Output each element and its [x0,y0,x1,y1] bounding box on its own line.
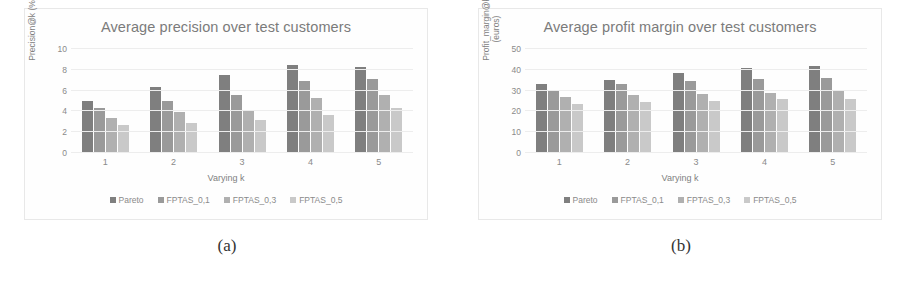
legend-item: FPTAS_0,3 [678,195,730,205]
x-axis-ticks: 12345 [525,157,867,167]
x-axis-tick-label: 4 [730,157,798,167]
legend-label: FPTAS_0,1 [167,195,210,205]
y-axis-tick-label: 40 [512,65,521,75]
legend-swatch-icon [678,197,684,203]
legend-label: FPTAS_0,3 [687,195,730,205]
bar [673,73,684,153]
legend-item: FPTAS_0,5 [744,195,796,205]
bar [616,84,627,153]
bar [219,75,230,153]
gridline [71,69,413,70]
plot-area: 0246810 [71,49,413,153]
bar [777,99,788,153]
y-axis-tick-label: 10 [512,127,521,137]
bar-group [799,49,867,153]
bar [162,101,173,153]
bar [82,101,93,153]
x-axis-label: Varying k [25,173,427,183]
bar [174,112,185,153]
y-axis-tick-label: 2 [62,127,67,137]
bar [299,81,310,153]
bar [560,97,571,153]
x-axis-tick-label: 5 [345,157,413,167]
y-axis-tick-label: 50 [512,44,521,54]
bar [311,98,322,153]
x-axis-tick-label: 3 [662,157,730,167]
chart-legend: ParetoFPTAS_0,1FPTAS_0,3FPTAS_0,5 [25,195,427,205]
x-axis-tick-label: 1 [71,157,139,167]
x-axis-tick-label: 2 [139,157,207,167]
bar [604,80,615,153]
y-axis-tick-label: 10 [58,44,67,54]
bar [379,95,390,153]
bar [709,101,720,153]
x-axis-label: Varying k [479,173,881,183]
legend-item: FPTAS_0,3 [224,195,276,205]
bar [287,65,298,153]
legend-swatch-icon [744,197,750,203]
bar-group [139,49,207,153]
bar-groups [525,49,867,153]
legend-swatch-icon [290,197,296,203]
bar [231,95,242,153]
gridline [71,131,413,132]
y-axis-tick-label: 4 [62,106,67,116]
legend-label: FPTAS_0,3 [233,195,276,205]
bar [548,91,559,153]
chart-title: Average profit margin over test customer… [479,19,881,35]
x-axis-tick-label: 4 [276,157,344,167]
bar [536,84,547,153]
figure-panel-b: Average profit margin over test customer… [454,0,908,284]
legend-item: Pareto [564,195,598,205]
chart-card-precision: Average precision over test customers Pr… [24,8,428,220]
legend-label: Pareto [119,195,144,205]
legend-label: FPTAS_0,5 [753,195,796,205]
legend-label: FPTAS_0,1 [621,195,664,205]
legend-swatch-icon [158,197,164,203]
gridline [71,110,413,111]
bar [685,81,696,153]
gridline [71,90,413,91]
y-axis-label: Precision@k (%) [27,0,51,77]
figure-row: Average precision over test customers Pr… [0,0,908,284]
gridline [525,48,867,49]
bar-group [208,49,276,153]
gridline [525,90,867,91]
gridline [525,110,867,111]
bar-group [71,49,139,153]
y-axis-tick-label: 0 [62,148,67,158]
bar [628,95,639,153]
bar [186,123,197,153]
x-axis-tick-label: 1 [525,157,593,167]
bar [765,93,776,153]
y-axis-tick-label: 30 [512,86,521,96]
subfigure-caption-b: (b) [454,236,908,256]
y-axis-tick-label: 6 [62,86,67,96]
gridline [71,152,413,153]
chart-card-profit-margin: Average profit margin over test customer… [478,8,882,220]
x-axis-tick-label: 5 [799,157,867,167]
x-axis-ticks: 12345 [71,157,413,167]
chart-title: Average precision over test customers [25,19,427,35]
gridline [525,131,867,132]
x-axis-tick-label: 3 [208,157,276,167]
legend-item: FPTAS_0,5 [290,195,342,205]
bar [150,87,161,153]
legend-swatch-icon [110,197,116,203]
plot-area: 01020304050 [525,49,867,153]
y-axis-tick-label: 8 [62,65,67,75]
bar-group [662,49,730,153]
figure-panel-a: Average precision over test customers Pr… [0,0,454,284]
bar [572,104,583,153]
bar-group [345,49,413,153]
bar [833,91,844,153]
legend-item: FPTAS_0,1 [612,195,664,205]
legend-swatch-icon [224,197,230,203]
bar [809,66,820,153]
bar-group [730,49,798,153]
legend-label: Pareto [573,195,598,205]
legend-item: Pareto [110,195,144,205]
bar-groups [71,49,413,153]
bar [845,99,856,153]
bar [323,115,334,153]
